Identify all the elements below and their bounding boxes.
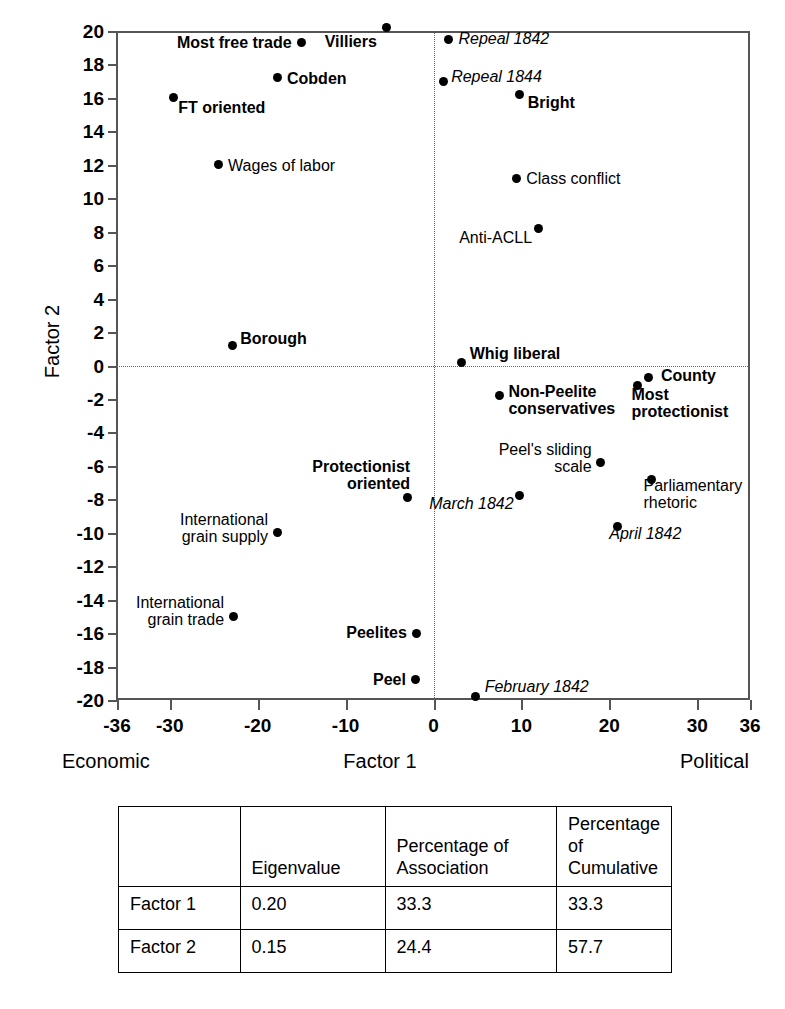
x-axis-tick-label: -20 [244,716,271,735]
table-header-cumulative: Percentage of Cumulative [556,807,671,887]
cell-association: 33.3 [385,886,556,929]
data-point [439,77,448,86]
y-axis-tick [108,667,117,669]
y-axis-tick-label: -14 [56,591,104,610]
y-axis-tick [108,399,117,401]
y-axis-tick [108,265,117,267]
x-axis-title: Factor 1 [343,750,416,773]
table-header-eigenvalue: Eigenvalue [240,807,385,887]
x-axis-tick [750,700,752,710]
data-point [512,174,521,183]
x-axis-tick-label: 30 [687,716,708,735]
data-point-label: International grain trade [136,594,224,628]
data-point-label: Villiers [325,33,377,50]
data-point-label: February 1842 [485,678,589,695]
y-axis-tick [108,332,117,334]
y-axis-tick-label: -16 [56,624,104,643]
data-point [412,629,421,638]
data-point-label: Parliamentary rhetoric [644,477,743,511]
data-point-label: Most protectionist [631,386,728,420]
table-row: Factor 20.1524.457.7 [119,929,672,972]
y-axis-tick-label: 2 [56,323,104,342]
data-point [457,358,466,367]
y-axis-tick-label: 10 [56,189,104,208]
y-axis-tick [108,366,117,368]
y-axis-tick-label: 16 [56,89,104,108]
scatter-plot-figure: Factor 2 Factor 1 Economic Political 201… [0,0,785,790]
row-label: Factor 1 [119,886,241,929]
y-axis-tick-label: 4 [56,290,104,309]
data-point-label: Class conflict [526,170,620,187]
data-point-label: Whig liberal [470,345,561,362]
y-axis-tick-label: -8 [56,490,104,509]
x-axis-tick [346,700,348,710]
data-point [214,160,223,169]
x-axis-tick-label: -30 [156,716,183,735]
table-body: Factor 10.2033.333.3Factor 20.1524.457.7 [119,886,672,972]
y-axis-tick-label: -2 [56,390,104,409]
x-axis-tick [434,700,436,710]
data-point [273,528,282,537]
data-point [495,391,504,400]
row-label: Factor 2 [119,929,241,972]
y-axis-tick-label: 20 [56,22,104,41]
y-axis-tick-label: 14 [56,122,104,141]
x-axis-tick-label: 10 [511,716,532,735]
data-point-label: Cobden [287,70,347,87]
data-point-label: Peel's sliding scale [499,441,592,475]
cell-cumulative: 33.3 [556,886,671,929]
y-axis-tick-label: 0 [56,357,104,376]
cell-eigenvalue: 0.20 [240,886,385,929]
data-point-label: FT oriented [178,99,265,116]
y-axis-tick [108,432,117,434]
vertical-reference-line [434,31,435,700]
y-axis-tick-label: 12 [56,156,104,175]
data-point-label: Repeal 1844 [451,68,542,85]
y-axis-tick [108,232,117,234]
y-axis-tick [108,633,117,635]
x-axis-tick [170,700,172,710]
x-axis-tick [521,700,523,710]
y-axis-tick [108,98,117,100]
data-point [444,35,453,44]
x-axis-tick-label: -10 [332,716,359,735]
y-axis-tick-label: -18 [56,658,104,677]
y-axis-tick [108,499,117,501]
y-axis-tick [108,566,117,568]
y-axis-tick-label: -6 [56,457,104,476]
data-point-label: Borough [240,330,307,347]
y-axis-tick [108,700,117,702]
y-axis-tick [108,198,117,200]
y-axis-tick-label: 18 [56,55,104,74]
data-point-label: Repeal 1842 [458,30,549,47]
data-point-label: Bright [528,94,575,111]
y-axis-tick-label: -20 [56,691,104,710]
data-point-label: March 1842 [429,495,514,512]
table-row: Factor 10.2033.333.3 [119,886,672,929]
x-axis-tick-label: 20 [599,716,620,735]
y-axis-tick [108,466,117,468]
x-axis-tick-label: -36 [103,716,130,735]
data-point [596,458,605,467]
cell-association: 24.4 [385,929,556,972]
y-axis-tick-label: -4 [56,423,104,442]
table-header-row: Eigenvalue Percentage of Association Per… [119,807,672,887]
y-axis-tick-label: 6 [56,256,104,275]
x-axis-right-pole-label: Political [680,750,749,773]
data-point [229,612,238,621]
y-axis-tick [108,131,117,133]
data-point-label: Protectionist oriented [312,458,410,492]
data-point-label: Peelites [346,624,406,641]
table-header-blank [119,807,241,887]
data-point [228,341,237,350]
data-point-label: Wages of labor [228,157,335,174]
y-axis-tick [108,165,117,167]
y-axis-tick-label: 8 [56,223,104,242]
cell-eigenvalue: 0.15 [240,929,385,972]
data-point-label: Non-Peelite conservatives [508,383,615,417]
y-axis-tick [108,31,117,33]
y-axis-tick [108,64,117,66]
y-axis-tick-label: -12 [56,557,104,576]
y-axis-tick [108,533,117,535]
x-axis-tick [117,700,119,710]
